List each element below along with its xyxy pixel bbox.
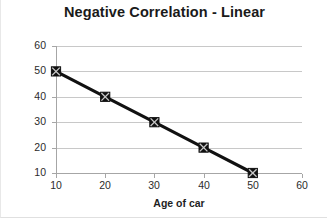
data-point-marker bbox=[199, 143, 208, 152]
y-tick-label: 30 bbox=[6, 116, 46, 127]
data-point-marker bbox=[101, 92, 110, 101]
data-point-marker bbox=[51, 67, 60, 76]
x-tick-mark bbox=[105, 174, 106, 178]
data-series bbox=[56, 46, 302, 173]
x-tick-label: 50 bbox=[233, 180, 273, 191]
x-tick-label: 40 bbox=[184, 180, 224, 191]
x-tick-label: 20 bbox=[85, 180, 125, 191]
y-tick-label: 10 bbox=[6, 167, 46, 178]
plot-area bbox=[56, 46, 302, 173]
x-tick-mark bbox=[154, 174, 155, 178]
y-tick-label: 50 bbox=[6, 65, 46, 76]
y-tick-label: 20 bbox=[6, 142, 46, 153]
x-tick-label: 30 bbox=[134, 180, 174, 191]
y-tick-label: 40 bbox=[6, 91, 46, 102]
x-tick-mark bbox=[302, 174, 303, 178]
chart-container: Negative Correlation - Linear Value of C… bbox=[0, 0, 327, 218]
y-tick-label: 60 bbox=[6, 40, 46, 51]
x-tick-mark bbox=[204, 174, 205, 178]
data-point-marker bbox=[150, 118, 159, 127]
data-point-marker bbox=[248, 168, 257, 177]
x-axis-title: Age of car bbox=[56, 197, 302, 209]
chart-title: Negative Correlation - Linear bbox=[1, 4, 327, 20]
x-axis-line bbox=[56, 173, 302, 174]
x-tick-label: 10 bbox=[36, 180, 76, 191]
x-tick-label: 60 bbox=[282, 180, 322, 191]
x-tick-mark bbox=[56, 174, 57, 178]
